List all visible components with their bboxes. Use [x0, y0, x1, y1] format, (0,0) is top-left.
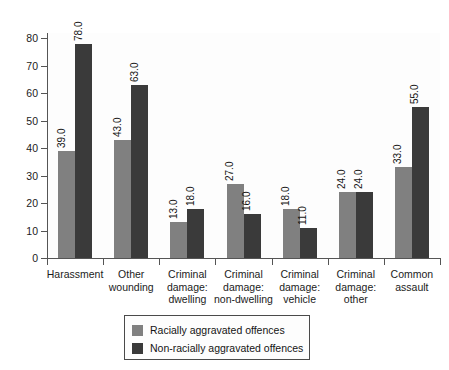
bar-value-label: 13.0: [169, 200, 179, 219]
chart-legend: Racially aggravated offences Non-raciall…: [124, 315, 310, 360]
bar: 13.0: [170, 222, 187, 258]
x-axis-category-label-line: dwelling: [155, 293, 219, 306]
x-axis-category-label: Harassment: [43, 268, 107, 281]
bar-value-label: 55.0: [410, 84, 420, 103]
bar-value-label: 18.0: [186, 186, 196, 205]
bar-value-label: 78.0: [74, 21, 84, 40]
x-axis-category-label-line: assault: [380, 281, 444, 294]
bar-chart: 80706050403020100 39.078.043.063.013.018…: [0, 0, 449, 370]
x-axis-tick: [159, 258, 160, 265]
x-axis-category-label: Criminaldamage:vehicle: [268, 268, 332, 306]
x-axis-tick: [103, 258, 104, 265]
x-axis-tick: [384, 258, 385, 265]
legend-swatch-icon-non-racially-aggravated: [132, 343, 143, 354]
y-axis-tick: [41, 38, 47, 39]
x-axis-line: [47, 258, 440, 259]
bar: 55.0: [412, 107, 429, 258]
bar-value-label: 24.0: [354, 170, 364, 189]
y-axis-tick-label: 60: [12, 88, 38, 98]
bar-value-label: 43.0: [113, 117, 123, 136]
y-axis-tick: [41, 148, 47, 149]
bar-value-label: 39.0: [57, 128, 67, 147]
bar: 11.0: [300, 228, 317, 258]
legend-label-non-racially-aggravated: Non-racially aggravated offences: [150, 343, 303, 354]
x-axis-category-label: Commonassault: [380, 268, 444, 293]
y-axis-tick-label: 20: [12, 198, 38, 208]
x-axis-tick: [440, 258, 441, 265]
y-axis-tick: [41, 176, 47, 177]
y-axis-tick-label: 10: [12, 226, 38, 236]
bar-value-label: 16.0: [242, 192, 252, 211]
x-axis-category-label-line: other: [324, 293, 388, 306]
x-axis-tick: [272, 258, 273, 265]
y-axis-line: [47, 33, 48, 259]
bar: 43.0: [114, 140, 131, 258]
y-axis-tick: [41, 231, 47, 232]
x-axis-category-label: Criminaldamage:dwelling: [155, 268, 219, 306]
x-axis-category-label-line: wounding: [99, 281, 163, 294]
y-axis-tick: [41, 66, 47, 67]
bar-value-label: 24.0: [337, 170, 347, 189]
x-axis-category-label-line: Harassment: [43, 268, 107, 281]
legend-item-non-racially-aggravated: Non-racially aggravated offences: [132, 339, 302, 357]
x-axis-category-label-line: Criminal: [324, 268, 388, 281]
x-axis-tick: [215, 258, 216, 265]
x-axis-category-label-line: Criminal: [155, 268, 219, 281]
x-axis-category-label: Criminaldamage:non-dwelling: [211, 268, 275, 306]
x-axis-category-label-line: non-dwelling: [211, 293, 275, 306]
bar: 39.0: [58, 151, 75, 258]
bar: 63.0: [131, 85, 148, 258]
x-axis-category-label-line: Criminal: [268, 268, 332, 281]
y-axis-tick-label: 80: [12, 33, 38, 43]
y-axis-tick-label: 40: [12, 143, 38, 153]
bar-value-label: 27.0: [225, 161, 235, 180]
bar: 33.0: [395, 167, 412, 258]
x-axis-category-label-line: damage:: [211, 281, 275, 294]
x-axis-tick: [328, 258, 329, 265]
bar-value-label: 33.0: [393, 145, 403, 164]
x-axis-category-label-line: Criminal: [211, 268, 275, 281]
bar: 18.0: [187, 209, 204, 259]
y-axis-tick: [41, 121, 47, 122]
y-axis-tick: [41, 203, 47, 204]
bar-value-label: 18.0: [281, 186, 291, 205]
x-axis-category-label: Criminaldamage:other: [324, 268, 388, 306]
x-axis-category-label-line: damage:: [324, 281, 388, 294]
y-axis-tick-label: 70: [12, 61, 38, 71]
bar-value-label: 11.0: [298, 206, 308, 225]
bar-value-label: 63.0: [130, 62, 140, 81]
bar: 16.0: [244, 214, 261, 258]
x-axis-category-label-line: damage:: [155, 281, 219, 294]
legend-item-racially-aggravated: Racially aggravated offences: [132, 321, 302, 339]
y-axis-tick-label: 0: [12, 253, 38, 263]
y-axis-tick-label: 30: [12, 171, 38, 181]
x-axis-category-label: Otherwounding: [99, 268, 163, 293]
x-axis-tick: [47, 258, 48, 265]
x-axis-category-label-line: vehicle: [268, 293, 332, 306]
bar: 24.0: [356, 192, 373, 258]
bar: 78.0: [75, 44, 92, 259]
x-axis-category-label-line: damage:: [268, 281, 332, 294]
y-axis-tick: [41, 93, 47, 94]
bar: 24.0: [339, 192, 356, 258]
x-axis-category-label-line: Common: [380, 268, 444, 281]
legend-label-racially-aggravated: Racially aggravated offences: [150, 325, 285, 336]
y-axis-tick-label: 50: [12, 116, 38, 126]
x-axis-category-label-line: Other: [99, 268, 163, 281]
legend-swatch-icon-racially-aggravated: [132, 325, 143, 336]
